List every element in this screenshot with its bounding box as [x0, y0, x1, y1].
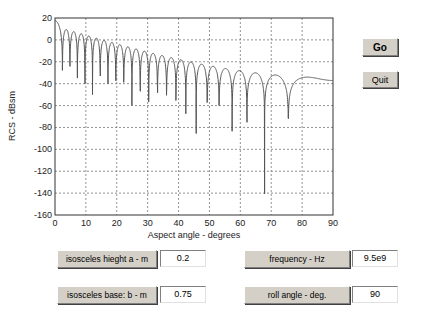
- x-tick-label: 10: [81, 218, 91, 228]
- roll-angle-label-button[interactable]: roll angle - deg.: [244, 286, 350, 304]
- x-tick-label: 0: [52, 218, 57, 228]
- x-tick-label: 30: [143, 218, 153, 228]
- height-label-button[interactable]: isosceles hieght a - m: [57, 250, 157, 268]
- x-tick-label: 20: [112, 218, 122, 228]
- roll-angle-input[interactable]: 90: [352, 286, 398, 303]
- x-axis-ticks: 0102030405060708090: [52, 218, 338, 228]
- y-tick-label: -40: [39, 79, 52, 89]
- rcs-chart: 200-20-40-60-80-100-120-140-160 01020304…: [0, 0, 424, 324]
- rcs-curve: [55, 21, 333, 194]
- x-tick-label: 60: [235, 218, 245, 228]
- x-tick-label: 90: [328, 218, 338, 228]
- base-label-button[interactable]: isosceles base: b - m: [57, 286, 157, 304]
- y-tick-label: -20: [39, 57, 52, 67]
- y-tick-label: -160: [34, 210, 52, 220]
- x-axis-label: Aspect angle - degrees: [148, 230, 241, 240]
- y-axis-label: RCS - dBsm: [7, 91, 17, 141]
- go-button[interactable]: Go: [362, 38, 398, 56]
- y-axis-ticks: 200-20-40-60-80-100-120-140-160: [34, 13, 52, 220]
- chart-grid: [55, 18, 333, 215]
- frequency-input[interactable]: 9.5e9: [352, 250, 398, 267]
- frequency-label-button[interactable]: frequency - Hz: [244, 250, 350, 268]
- y-tick-label: 0: [47, 35, 52, 45]
- x-tick-label: 80: [297, 218, 307, 228]
- x-tick-label: 70: [266, 218, 276, 228]
- y-tick-label: -60: [39, 101, 52, 111]
- base-input[interactable]: 0.75: [160, 286, 206, 303]
- y-tick-label: -100: [34, 144, 52, 154]
- x-tick-label: 40: [174, 218, 184, 228]
- y-tick-label: -120: [34, 166, 52, 176]
- height-input[interactable]: 0.2: [160, 250, 206, 267]
- plot-frame: [55, 18, 333, 215]
- y-tick-label: -80: [39, 122, 52, 132]
- quit-button[interactable]: Quit: [362, 71, 398, 88]
- y-tick-label: 20: [42, 13, 52, 23]
- y-tick-label: -140: [34, 188, 52, 198]
- x-tick-label: 50: [204, 218, 214, 228]
